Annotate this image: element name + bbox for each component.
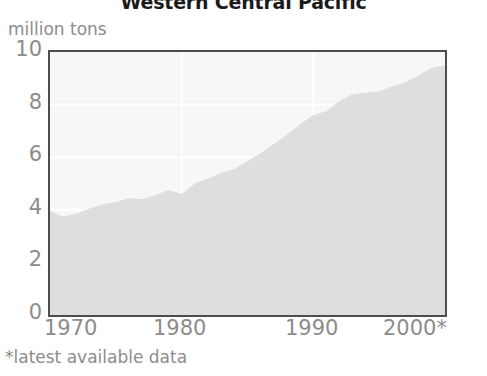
chart-footnote: *latest available data (5, 347, 187, 367)
x-axis-tick-1970: 1970 (44, 318, 97, 339)
x-axis-tick-2000: 2000* (383, 318, 447, 339)
x-axis-tick-1990: 1990 (285, 318, 338, 339)
x-axis-tick-1980: 1980 (153, 318, 206, 339)
x-axis-tick-labels: 1970198019902000* (0, 0, 487, 376)
chart-figure: Western Central Pacific million tons 108… (0, 0, 487, 376)
